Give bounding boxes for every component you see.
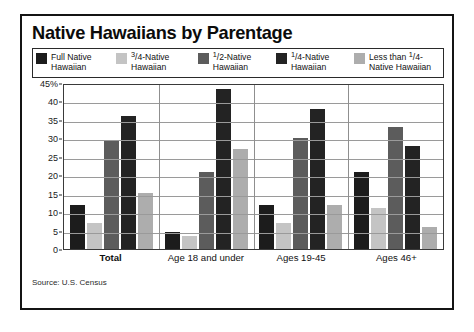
y-tick-label: 35 bbox=[48, 116, 58, 126]
y-tick-label: 0 bbox=[53, 245, 58, 255]
source-note: Source: U.S. Census bbox=[32, 278, 107, 287]
y-tick-mark bbox=[59, 250, 62, 251]
bar-group-age-18-and-under bbox=[159, 85, 254, 249]
legend-label-quarter-native: 1/4-NativeHawaiian bbox=[291, 52, 329, 73]
y-tick-mark bbox=[59, 194, 62, 195]
legend-item-three-quarter-native: 3/4-NativeHawaiian bbox=[116, 52, 192, 73]
bar-group-total bbox=[64, 85, 159, 249]
legend-label-half-native: 1/2-NativeHawaiian bbox=[213, 52, 251, 73]
bar bbox=[199, 172, 214, 249]
bar bbox=[259, 205, 274, 249]
y-tick-label: 45% bbox=[40, 79, 58, 89]
plot-area bbox=[63, 84, 444, 250]
bar bbox=[388, 127, 403, 249]
chart-legend: Full NativeHawaiian3/4-NativeHawaiian1/2… bbox=[32, 48, 444, 78]
y-tick-mark bbox=[59, 84, 62, 85]
legend-item-less-than-quarter-native: Less than 1/4-Native Hawaiian bbox=[354, 52, 437, 73]
group-separator bbox=[254, 85, 255, 249]
legend-swatch-half-native bbox=[198, 53, 209, 64]
y-tick-mark bbox=[59, 231, 62, 232]
legend-swatch-full-native bbox=[36, 53, 47, 64]
bar-group-ages-19-45 bbox=[254, 85, 349, 249]
legend-item-half-native: 1/2-NativeHawaiian bbox=[198, 52, 270, 73]
chart-figure: Native Hawaiians by Parentage Full Nativ… bbox=[20, 14, 454, 310]
legend-label-full-native: Full NativeHawaiian bbox=[51, 52, 92, 73]
bar bbox=[182, 236, 197, 249]
x-axis-label: Age 18 and under bbox=[158, 252, 253, 263]
group-separator bbox=[348, 85, 349, 249]
y-tick-mark bbox=[59, 120, 62, 121]
y-tick-mark bbox=[59, 157, 62, 158]
legend-swatch-three-quarter-native bbox=[116, 53, 127, 64]
legend-swatch-quarter-native bbox=[276, 53, 287, 64]
legend-label-three-quarter-native: 3/4-NativeHawaiian bbox=[131, 52, 169, 73]
bar bbox=[327, 205, 342, 249]
y-tick-mark bbox=[59, 139, 62, 140]
y-tick-label: 20 bbox=[48, 171, 58, 181]
legend-item-full-native: Full NativeHawaiian bbox=[36, 52, 110, 73]
y-tick-label: 30 bbox=[48, 134, 58, 144]
y-axis: 45%4035302520151050 bbox=[32, 84, 62, 250]
y-tick-mark bbox=[59, 213, 62, 214]
page-title: Native Hawaiians by Parentage bbox=[32, 22, 292, 44]
bar bbox=[233, 149, 248, 249]
y-tick-mark bbox=[59, 176, 62, 177]
legend-swatch-less-than-quarter-native bbox=[354, 53, 365, 64]
bar bbox=[70, 205, 85, 249]
y-tick-label: 5 bbox=[53, 227, 58, 237]
y-tick-label: 15 bbox=[48, 190, 58, 200]
y-tick-label: 40 bbox=[48, 97, 58, 107]
x-axis-labels: TotalAge 18 and underAges 19-45Ages 46+ bbox=[63, 252, 444, 263]
plot-area-wrapper: 45%4035302520151050 TotalAge 18 and unde… bbox=[32, 84, 444, 274]
bar bbox=[165, 232, 180, 249]
x-axis-label: Total bbox=[63, 252, 158, 263]
y-tick-label: 10 bbox=[48, 208, 58, 218]
bar bbox=[138, 193, 153, 249]
bar-group-ages-46 bbox=[348, 85, 443, 249]
bar bbox=[354, 172, 369, 249]
group-separator bbox=[159, 85, 160, 249]
bar bbox=[121, 116, 136, 249]
bar bbox=[276, 223, 291, 249]
y-tick-label: 25 bbox=[48, 153, 58, 163]
legend-label-less-than-quarter-native: Less than 1/4-Native Hawaiian bbox=[369, 52, 431, 73]
bar bbox=[422, 227, 437, 249]
y-tick-mark bbox=[59, 102, 62, 103]
x-axis-label: Ages 19-45 bbox=[254, 252, 349, 263]
x-axis-label: Ages 46+ bbox=[349, 252, 444, 263]
bar bbox=[87, 223, 102, 249]
legend-item-quarter-native: 1/4-NativeHawaiian bbox=[276, 52, 348, 73]
bar bbox=[310, 109, 325, 249]
bar bbox=[216, 89, 231, 249]
